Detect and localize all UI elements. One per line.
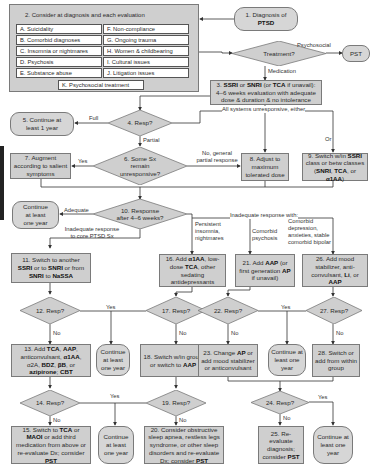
label-all-unresponsive: All systems unresponsive, either: [222, 106, 305, 113]
panel-item: I. Cultural issues: [103, 57, 189, 67]
node-continue-24: Continue at least one year: [313, 426, 353, 464]
decision-4-resp: 4. Resp?: [108, 110, 172, 136]
panel-item: D. Psychosis: [16, 57, 102, 67]
node-20-consider-sleep-apnea: 20. Consider obstructive sleep apnea, re…: [144, 426, 224, 464]
label-adequate: Adequate: [64, 207, 89, 214]
node-3-ssri-snri: 3. SSRI or SNRI (or TCA if unavail):4–6 …: [210, 80, 322, 105]
decision-24-resp: 24. Resp?: [251, 391, 309, 414]
node-1-diagnosis: 1. Diagnosis ofPTSD: [234, 7, 298, 31]
node-13-add-tca-aap: 13. Add TCA, AAP, anticonvulsant, α1AA, …: [11, 344, 91, 377]
panel-item: A. Suicidality: [16, 24, 102, 34]
node-5-continue: 5. Continue at least 1 year: [10, 112, 74, 136]
panel-item: J. Litigation issues: [103, 68, 189, 78]
label-yes-24: Yes: [318, 394, 327, 401]
label-no-17: No: [179, 330, 186, 337]
node-21-add-aap: 21. Add AAP (or first generation AP if u…: [235, 254, 295, 287]
label-no-general: No, general partial response: [196, 150, 238, 164]
label-comorbid-depression: Comorbid depression, anxieties, stable c…: [288, 218, 332, 246]
label-comorbid-psychosis: Comorbid psychosis: [252, 228, 282, 242]
label-yes-6: Yes: [78, 158, 87, 165]
node-continue-10: Continue at least one year: [12, 201, 59, 229]
decision-14-resp: 14. Resp?: [20, 390, 80, 416]
label-no-22: No: [231, 330, 238, 337]
panel-item: B. Comorbid diagnoses: [16, 35, 102, 45]
label-partial: Partial: [143, 137, 159, 144]
decision-10-response: 10. Response after 4–6 weeks?: [93, 199, 187, 229]
panel-item: H. Women & childbearing: [103, 46, 189, 56]
decision-12-resp: 12. Resp?: [20, 297, 80, 324]
side-tab-marker: [0, 146, 4, 220]
node-18-switch-aap: 18. Switch w/in group or switch to AAP: [140, 344, 206, 377]
decision-19-resp: 19. Resp?: [146, 390, 206, 416]
panel-item: K. Psychosocial treatment: [58, 80, 144, 90]
label-medication: Medication: [268, 68, 296, 75]
consider-panel: 2. Consider at diagnosis and each evalua…: [9, 4, 199, 92]
label-yes-14-19: Yes: [110, 393, 119, 400]
label-no-14: No: [53, 417, 60, 424]
node-11-switch-ssri: 11. Switch to another SSRI or to SNRI or…: [11, 253, 91, 283]
decision-17-resp: 17. Resp?: [146, 297, 206, 324]
node-23-change-ap: 23. Change AP or add mood stabilizer or …: [198, 344, 258, 377]
label-yes-12-17: Yes: [106, 304, 115, 311]
node-continue-12: Continue at least one year: [96, 344, 130, 376]
decision-22-resp: 22. Resp?: [198, 297, 258, 324]
label-or: Or: [325, 136, 331, 143]
node-26-add-mood-stabilizer: 26. Add mood stabilizer, anti-convulsant…: [302, 254, 368, 287]
panel-item: G. Ongoing trauma: [103, 35, 189, 45]
node-28-switch-within-group: 28. Switch or add from within group: [312, 344, 360, 377]
node-15-switch-tca-maoi: 15. Switch to TCA or MAOI or add third m…: [11, 426, 91, 464]
label-psychosocial: Psychosocial: [297, 42, 331, 49]
label-inadequate-core: Inadequate response to core PTSD Sx: [62, 226, 122, 240]
label-no-19: No: [179, 417, 186, 424]
label-persistent-insomnia: Persistent insomnia, nightmares: [195, 221, 229, 242]
node-7-augment: 7. Augment according to salient symptoms: [10, 153, 71, 179]
panel-item: E. Substance abuse: [16, 68, 102, 78]
node-25-re-evaluate: 25. Re-evaluate diagnosis; consider PST: [258, 426, 304, 464]
label-no-24: No: [283, 415, 290, 422]
panel-item: C. Insomnia or nightmares: [16, 46, 102, 56]
node-continue-22: Continue at least one year: [268, 344, 306, 376]
node-continue-14: Continue at least one year: [98, 426, 134, 464]
label-no-27: No: [336, 330, 343, 337]
panel-title: 2. Consider at diagnosis and each evalua…: [25, 12, 145, 18]
node-9-switch-class: 9. Switch w/in SSRI class or betw classe…: [302, 153, 368, 181]
label-no-12: No: [53, 330, 60, 337]
decision-6-sx-unresponsive: 6. Some Sx remain unresponsive?: [93, 147, 187, 185]
node-16-add-a1aa: 16. Add α1AA, low-dose TCA, other sedati…: [159, 254, 226, 287]
panel-item: F. Non-compliance: [103, 24, 189, 34]
label-full: Full: [89, 115, 98, 122]
label-yes-22-27: Yes: [281, 304, 290, 311]
node-8-adjust-dose: 8. Adjust to maximum tolerated dose: [241, 153, 289, 181]
decision-27-resp: 27. Resp?: [306, 297, 362, 324]
node-pst: PST: [342, 45, 370, 62]
